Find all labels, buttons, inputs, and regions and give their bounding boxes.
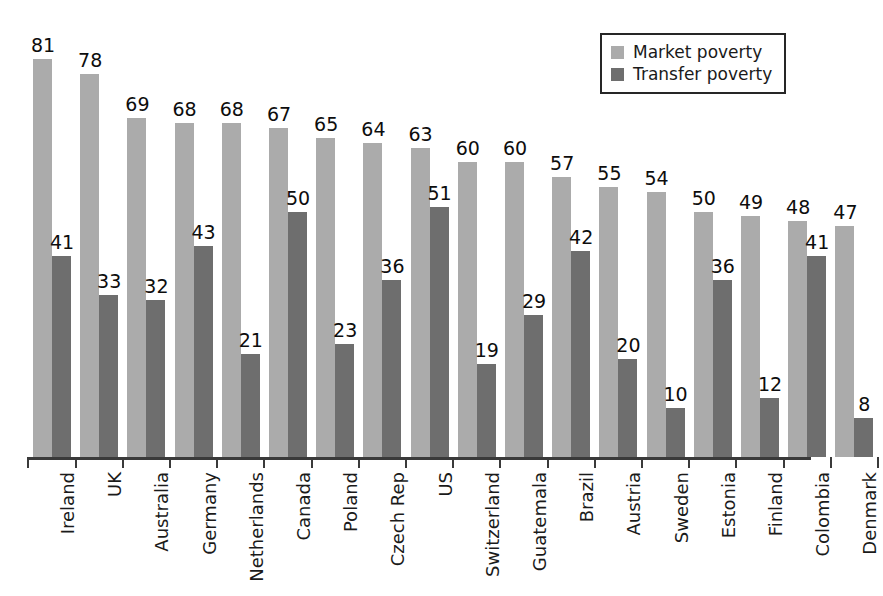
x-axis-label-australia: Australia bbox=[153, 472, 171, 552]
bar-market bbox=[835, 226, 854, 457]
bar-transfer bbox=[854, 418, 873, 457]
bar-transfer bbox=[430, 207, 449, 457]
bar-group: 6029 bbox=[505, 20, 543, 457]
x-axis-label-poland: Poland bbox=[342, 472, 360, 532]
bar-value-label: 36 bbox=[703, 257, 743, 276]
x-axis-label-denmark: Denmark bbox=[861, 472, 879, 555]
x-axis-label-sweden: Sweden bbox=[673, 472, 691, 543]
bar-group: 6843 bbox=[175, 20, 213, 457]
bar-value-label: 68 bbox=[212, 100, 252, 119]
plot-area: 8141783369326843682167506523643663516019… bbox=[30, 20, 812, 457]
bar-value-label: 60 bbox=[495, 139, 535, 158]
bar-group: 4912 bbox=[741, 20, 779, 457]
x-axis-label-germany: Germany bbox=[201, 472, 219, 555]
bar-transfer bbox=[807, 256, 826, 457]
bar-value-label: 47 bbox=[825, 203, 865, 222]
bar-group: 8141 bbox=[33, 20, 71, 457]
x-axis-tick bbox=[830, 457, 832, 468]
bar-group: 4841 bbox=[788, 20, 826, 457]
x-axis-tick bbox=[311, 457, 313, 468]
bar-group: 5036 bbox=[694, 20, 732, 457]
bar-value-label: 8 bbox=[844, 395, 883, 414]
x-axis-tick bbox=[216, 457, 218, 468]
x-axis-tick bbox=[547, 457, 549, 468]
bar-value-label: 54 bbox=[637, 169, 677, 188]
bar-value-label: 81 bbox=[23, 36, 63, 55]
x-axis-tick bbox=[735, 457, 737, 468]
bar-group: 7833 bbox=[80, 20, 118, 457]
x-axis-tick bbox=[169, 457, 171, 468]
bar-group: 6019 bbox=[458, 20, 496, 457]
bar-value-label: 64 bbox=[353, 120, 393, 139]
x-axis-label-us: US bbox=[437, 472, 455, 497]
x-axis-label-netherlands: Netherlands bbox=[248, 472, 266, 582]
x-axis-tick bbox=[452, 457, 454, 468]
bar-group: 6932 bbox=[127, 20, 165, 457]
bar-value-label: 29 bbox=[514, 292, 554, 311]
x-axis-tick bbox=[783, 457, 785, 468]
bar-transfer bbox=[241, 354, 260, 457]
bar-value-label: 69 bbox=[117, 95, 157, 114]
bar-value-label: 10 bbox=[656, 385, 696, 404]
bar-transfer bbox=[618, 359, 637, 457]
bar-value-label: 12 bbox=[750, 375, 790, 394]
bar-transfer bbox=[146, 300, 165, 457]
bar-value-label: 43 bbox=[184, 223, 224, 242]
x-axis-tick bbox=[641, 457, 643, 468]
bar-value-label: 50 bbox=[278, 189, 318, 208]
bar-transfer bbox=[760, 398, 779, 457]
x-axis-tick bbox=[877, 457, 879, 468]
bar-value-label: 49 bbox=[731, 193, 771, 212]
x-axis-label-brazil: Brazil bbox=[578, 472, 596, 522]
bar-market bbox=[552, 177, 571, 457]
x-axis-tick bbox=[499, 457, 501, 468]
bar-market bbox=[80, 74, 99, 457]
x-axis-label-ireland: Ireland bbox=[59, 472, 77, 534]
bar-market bbox=[175, 123, 194, 457]
bar-value-label: 68 bbox=[165, 100, 205, 119]
bar-group: 5520 bbox=[599, 20, 637, 457]
bar-transfer bbox=[713, 280, 732, 457]
bar-value-label: 33 bbox=[89, 272, 129, 291]
bar-value-label: 20 bbox=[608, 336, 648, 355]
bar-market bbox=[222, 123, 241, 457]
bar-group: 5742 bbox=[552, 20, 590, 457]
bar-value-label: 21 bbox=[231, 331, 271, 350]
bar-value-label: 19 bbox=[467, 341, 507, 360]
bar-group: 5410 bbox=[647, 20, 685, 457]
bar-value-label: 51 bbox=[420, 184, 460, 203]
bar-value-label: 55 bbox=[589, 164, 629, 183]
bar-value-label: 23 bbox=[325, 321, 365, 340]
bar-value-label: 60 bbox=[448, 139, 488, 158]
x-axis-label-uk: UK bbox=[106, 472, 124, 497]
x-axis-label-canada: Canada bbox=[295, 472, 313, 541]
bar-value-label: 50 bbox=[684, 189, 724, 208]
x-axis-label-guatemala: Guatemala bbox=[531, 472, 549, 571]
bar-value-label: 67 bbox=[259, 105, 299, 124]
bar-market bbox=[599, 187, 618, 457]
bar-transfer bbox=[52, 256, 71, 457]
bar-group: 6436 bbox=[363, 20, 401, 457]
x-axis-tick bbox=[263, 457, 265, 468]
bar-value-label: 78 bbox=[70, 51, 110, 70]
bar-market bbox=[458, 162, 477, 457]
bar-transfer bbox=[99, 295, 118, 457]
bar-value-label: 32 bbox=[136, 277, 176, 296]
bar-transfer bbox=[477, 364, 496, 457]
bar-market bbox=[269, 128, 288, 457]
x-axis-tick bbox=[122, 457, 124, 468]
bar-market bbox=[741, 216, 760, 457]
bar-market bbox=[363, 143, 382, 457]
bar-market bbox=[33, 59, 52, 457]
bar-group: 6750 bbox=[269, 20, 307, 457]
x-axis-label-switzerland: Switzerland bbox=[484, 472, 502, 577]
bar-transfer bbox=[194, 246, 213, 457]
bar-value-label: 48 bbox=[778, 198, 818, 217]
bar-market bbox=[647, 192, 666, 457]
x-axis-line bbox=[28, 457, 811, 460]
bar-transfer bbox=[666, 408, 685, 457]
bar-market bbox=[694, 212, 713, 458]
x-axis-label-finland: Finland bbox=[767, 472, 785, 536]
bar-group: 478 bbox=[835, 20, 873, 457]
